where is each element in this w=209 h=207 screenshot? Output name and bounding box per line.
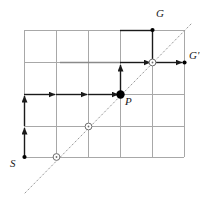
grid-lines [24, 30, 185, 158]
label-goal-prime: G' [189, 50, 199, 61]
node-G-prime [182, 60, 186, 64]
label-point-p: P [125, 96, 132, 107]
node-P [116, 90, 124, 98]
label-start: S [10, 158, 16, 169]
label-goal: G [156, 8, 164, 19]
node-crossing-2 [85, 123, 92, 130]
path-polyline [24, 30, 182, 157]
figure-canvas [0, 0, 209, 207]
node-G [150, 28, 154, 32]
dashed-diagonal-line [25, 23, 192, 193]
grid-path-figure: G G' P S [0, 0, 209, 207]
node-crossing-1 [53, 154, 60, 161]
node-crossing-3 [149, 59, 156, 66]
node-S [22, 155, 26, 159]
